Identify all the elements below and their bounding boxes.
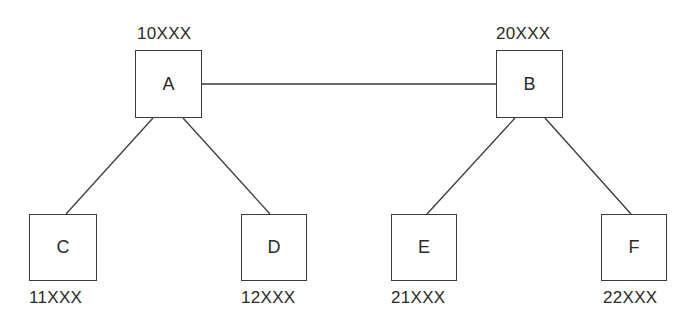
node-e-code: 21XXX — [391, 288, 445, 308]
node-c-code: 11XXX — [29, 288, 82, 308]
edge-b-e — [427, 118, 515, 214]
node-a: A — [135, 50, 202, 118]
node-f: F — [601, 214, 667, 281]
connector-lines — [0, 0, 696, 327]
node-b: B — [496, 50, 563, 118]
node-d-label: D — [268, 237, 281, 258]
node-c: C — [29, 214, 97, 281]
node-e-label: E — [418, 237, 430, 258]
node-d-code: 12XXX — [241, 288, 295, 308]
node-b-code: 20XXX — [496, 24, 550, 44]
node-f-label: F — [629, 237, 640, 258]
edge-a-d — [183, 118, 270, 214]
node-a-label: A — [162, 74, 174, 95]
node-f-code: 22XXX — [603, 288, 657, 308]
edge-a-c — [66, 118, 153, 214]
node-c-label: C — [57, 237, 70, 258]
node-e: E — [391, 214, 457, 281]
edge-b-f — [545, 118, 631, 214]
node-a-code: 10XXX — [137, 24, 191, 44]
node-b-label: B — [523, 74, 535, 95]
node-d: D — [241, 214, 307, 281]
